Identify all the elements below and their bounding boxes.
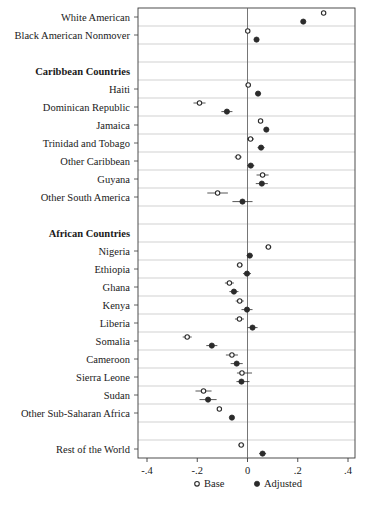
base-data-point[interactable] xyxy=(248,137,252,141)
base-data-point[interactable] xyxy=(240,371,244,375)
row-label: Dominican Republic xyxy=(43,102,131,113)
row-label: Black American Nonmover xyxy=(15,30,131,41)
row-label: Sudan xyxy=(104,390,131,401)
adjusted-data-point[interactable] xyxy=(234,361,239,366)
row-label: Other Sub-Saharan Africa xyxy=(21,408,130,419)
base-data-point[interactable] xyxy=(197,101,201,105)
adjusted-data-point[interactable] xyxy=(240,199,245,204)
adjusted-data-point[interactable] xyxy=(250,325,255,330)
base-data-point[interactable] xyxy=(266,245,270,249)
adjusted-data-point[interactable] xyxy=(248,163,253,168)
section-header-label: Caribbean Countries xyxy=(35,66,130,77)
row-label: Cameroon xyxy=(86,354,130,365)
x-axis-tick-label: -.2 xyxy=(192,465,203,476)
plot-frame xyxy=(138,8,355,458)
adjusted-data-point[interactable] xyxy=(229,415,234,420)
adjusted-data-point[interactable] xyxy=(247,253,252,258)
legend-marker-base xyxy=(195,482,200,487)
row-label: Kenya xyxy=(103,300,131,311)
row-label: Sierra Leone xyxy=(76,372,130,383)
legend-label-adjusted: Adjusted xyxy=(264,478,303,489)
row-label: Liberia xyxy=(100,318,131,329)
legend-marker-adjusted xyxy=(254,481,259,486)
legend: BaseAdjusted xyxy=(195,478,303,489)
row-label: Jamaica xyxy=(96,120,130,131)
base-data-point[interactable] xyxy=(237,317,241,321)
base-data-point[interactable] xyxy=(239,443,243,447)
row-label: White American xyxy=(61,12,131,23)
base-data-point[interactable] xyxy=(246,83,250,87)
adjusted-data-point[interactable] xyxy=(260,451,265,456)
row-labels-group: White AmericanBlack American NonmoverCar… xyxy=(15,12,138,455)
adjusted-data-point[interactable] xyxy=(244,307,249,312)
adjusted-data-point[interactable] xyxy=(239,379,244,384)
coefficient-plot: White AmericanBlack American NonmoverCar… xyxy=(0,0,366,505)
gridlines-group xyxy=(138,26,355,440)
plot-border xyxy=(138,8,355,458)
base-data-point[interactable] xyxy=(258,119,262,123)
adjusted-data-point[interactable] xyxy=(259,181,264,186)
x-axis-tick-label: -.4 xyxy=(141,465,153,476)
plot-canvas: White AmericanBlack American NonmoverCar… xyxy=(0,0,366,505)
row-label: Ghana xyxy=(103,282,131,293)
adjusted-data-point[interactable] xyxy=(301,19,306,24)
base-data-point[interactable] xyxy=(217,407,221,411)
row-label: Rest of the World xyxy=(56,444,131,455)
adjusted-data-point[interactable] xyxy=(264,127,269,132)
base-data-point[interactable] xyxy=(238,299,242,303)
row-label: Nigeria xyxy=(99,246,131,257)
base-data-point[interactable] xyxy=(236,155,240,159)
base-data-point[interactable] xyxy=(238,263,242,267)
adjusted-data-point[interactable] xyxy=(244,271,249,276)
row-label: Haiti xyxy=(109,84,130,95)
row-label: Guyana xyxy=(97,174,130,185)
row-label: Other Caribbean xyxy=(60,156,130,167)
x-axis-group: -.4-.20.2.4 xyxy=(141,458,352,476)
base-data-point[interactable] xyxy=(201,389,205,393)
base-data-point[interactable] xyxy=(321,11,325,15)
row-label: Ethiopia xyxy=(94,264,130,275)
base-data-point[interactable] xyxy=(260,173,264,177)
row-label: Trinidad and Tobago xyxy=(43,138,130,149)
x-axis-tick-label: .4 xyxy=(344,465,353,476)
adjusted-data-point[interactable] xyxy=(258,145,263,150)
adjusted-data-point[interactable] xyxy=(231,289,236,294)
adjusted-data-point[interactable] xyxy=(205,397,210,402)
row-label: Somalia xyxy=(96,336,131,347)
adjusted-data-point[interactable] xyxy=(254,37,259,42)
data-points-group xyxy=(183,11,326,456)
base-data-point[interactable] xyxy=(215,191,219,195)
base-data-point[interactable] xyxy=(185,335,189,339)
x-axis-tick-label: 0 xyxy=(245,465,250,476)
x-axis-tick-label: .2 xyxy=(294,465,302,476)
adjusted-data-point[interactable] xyxy=(224,109,229,114)
base-data-point[interactable] xyxy=(246,29,250,33)
adjusted-data-point[interactable] xyxy=(255,91,260,96)
base-data-point[interactable] xyxy=(227,281,231,285)
legend-label-base: Base xyxy=(204,478,225,489)
section-header-label: African Countries xyxy=(49,228,130,239)
base-data-point[interactable] xyxy=(230,353,234,357)
row-label: Other South America xyxy=(41,192,131,203)
adjusted-data-point[interactable] xyxy=(209,343,214,348)
